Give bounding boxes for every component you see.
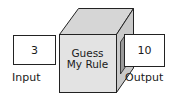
function-machine-diagram: 3 Input Guess My Rule 10 Output [0,0,176,97]
output-label: Output [125,72,163,83]
machine-label-line2: My Rule [59,59,116,70]
input-value: 3 [13,35,56,65]
machine-label: Guess My Rule [59,48,116,70]
output-value: 10 [124,34,165,67]
input-label: Input [12,72,40,83]
